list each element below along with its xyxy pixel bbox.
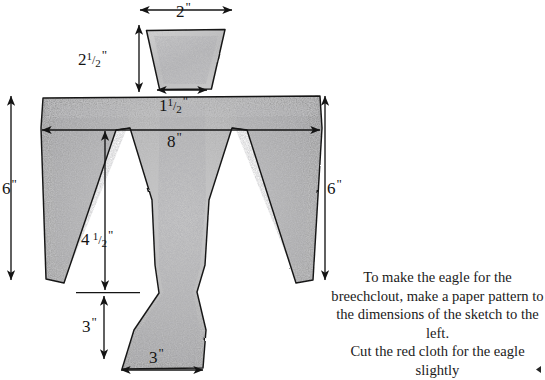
dim-label-wingspan: 8" (167, 130, 182, 150)
caption-line-4: Cut the red cloth for the eagle slightly (330, 342, 545, 379)
caption-line-2: breechclout, make a paper pattern to (330, 287, 545, 306)
eagle-pattern-figure: 2" 21/2" 11/2" 8" 6" 6" 4 1/2" 3" 3" To … (0, 0, 545, 380)
dim-label-left-height: 6" (2, 177, 17, 197)
dim-label-head-height: 21/2" (78, 48, 107, 68)
caption-line-3: the dimensions of the sketch to the left… (330, 305, 545, 342)
dim-label-neck-width: 11/2" (159, 94, 188, 114)
dim-label-head-top-width: 2" (176, 0, 191, 20)
instruction-caption: To make the eagle for the breechclout, m… (330, 268, 545, 380)
dim-label-right-height: 6" (327, 177, 342, 197)
dim-label-wing-drop: 4 1/2" (81, 228, 113, 248)
dim-label-tail-width: 3" (149, 346, 164, 366)
caption-line-1: To make the eagle for the (330, 268, 545, 287)
eagle-head-shape (147, 30, 226, 90)
dim-label-tail-height: 3" (82, 315, 97, 335)
